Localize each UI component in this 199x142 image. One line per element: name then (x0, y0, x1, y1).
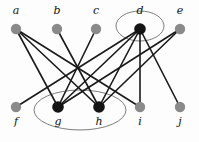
edge-a-g (16, 29, 58, 107)
node-h[interactable] (93, 101, 105, 113)
node-label-d: d (136, 4, 143, 17)
node-label-c: c (93, 4, 99, 17)
node-b[interactable] (52, 24, 62, 34)
node-f[interactable] (11, 102, 21, 112)
edge-a-h (16, 29, 99, 107)
node-d[interactable] (134, 23, 146, 35)
node-label-b: b (53, 4, 60, 17)
node-c[interactable] (91, 24, 101, 34)
node-e[interactable] (175, 24, 185, 34)
node-label-g: g (54, 115, 61, 128)
node-label-h: h (95, 115, 102, 128)
node-g[interactable] (52, 101, 64, 113)
node-i[interactable] (135, 102, 145, 112)
node-label-a: a (13, 4, 20, 17)
graph-canvas: abcdefghij (0, 0, 199, 142)
group-gh-outline (34, 90, 126, 130)
edge-d-j (140, 29, 180, 107)
node-a[interactable] (11, 24, 21, 34)
node-label-e: e (177, 4, 184, 17)
node-label-j: j (175, 115, 182, 128)
node-j[interactable] (175, 102, 185, 112)
edge-d-g (58, 29, 140, 107)
graph-figure: abcdefghij (0, 0, 199, 142)
node-label-i: i (138, 115, 142, 128)
node-label-f: f (13, 115, 20, 128)
edge-layer (16, 29, 180, 107)
